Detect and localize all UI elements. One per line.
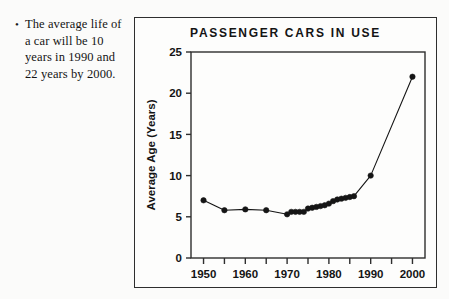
y-axis-tick-label: 0 — [176, 252, 182, 264]
data-point-marker — [351, 194, 356, 199]
page-canvas: • The average life of a car will be 10 y… — [0, 0, 449, 299]
bullet-text: The average life of a car will be 10 yea… — [25, 16, 126, 82]
bullet-row: • The average life of a car will be 10 y… — [14, 16, 126, 82]
chart-plot-area: 0510152025195019601970198019902000Averag… — [135, 18, 438, 289]
x-axis-tick-label: 1990 — [358, 268, 384, 280]
line-chart-svg: 0510152025195019601970198019902000Averag… — [135, 18, 438, 289]
y-axis-tick-label: 5 — [176, 211, 183, 223]
plot-frame — [191, 52, 425, 258]
figure-frame: PASSENGER CARS IN USE 051015202519501960… — [134, 17, 437, 288]
y-axis-tick-label: 20 — [169, 87, 182, 99]
y-axis-tick-label: 25 — [169, 46, 182, 58]
x-axis-tick-label: 1970 — [274, 268, 300, 280]
data-point-marker — [243, 207, 248, 212]
x-axis-tick-label: 1960 — [233, 268, 259, 280]
y-axis-tick-label: 10 — [169, 170, 182, 182]
bullet-paragraph: • The average life of a car will be 10 y… — [14, 16, 126, 82]
x-axis-tick-label: 1950 — [191, 268, 217, 280]
y-axis-tick-label: 15 — [169, 129, 182, 141]
series-line-0 — [204, 77, 413, 215]
bullet-marker-icon: • — [14, 16, 25, 33]
data-point-marker — [222, 208, 227, 213]
data-point-marker — [201, 198, 206, 203]
data-point-marker — [410, 74, 415, 79]
data-point-marker — [264, 208, 269, 213]
data-point-marker — [368, 173, 373, 178]
y-axis-title: Average Age (Years) — [145, 99, 157, 210]
x-axis-tick-label: 1980 — [316, 268, 342, 280]
x-axis-tick-label: 2000 — [400, 268, 426, 280]
